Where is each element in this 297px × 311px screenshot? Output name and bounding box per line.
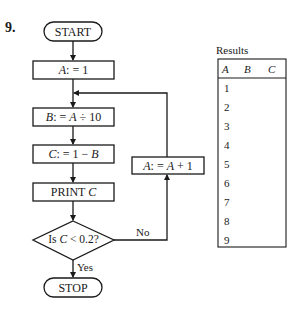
decision-var: C: [59, 233, 67, 245]
start-terminal: START: [44, 26, 102, 38]
results-header-a: A: [222, 64, 229, 75]
step-b-expr-rest: ÷ 10: [80, 110, 102, 124]
step-c-op: : = 1 −: [56, 147, 88, 161]
init-op: : = 1: [66, 63, 88, 77]
print-label: PRINT: [51, 185, 85, 199]
results-header-b: B: [244, 64, 251, 75]
step-b: B: = A ÷ 10: [33, 111, 114, 123]
init-step: A: = 1: [33, 64, 114, 76]
results-row-7-a: 7: [224, 197, 230, 208]
stop-terminal: STOP: [44, 282, 102, 294]
increment-var: A: [143, 159, 150, 173]
problem-number: 9.: [5, 21, 16, 35]
decision-step: Is C < 0.2?: [33, 234, 114, 246]
print-var: C: [88, 185, 96, 199]
results-row-9-a: 9: [224, 235, 230, 246]
results-row-2-a: 2: [224, 102, 230, 113]
step-c-expr-var: B: [91, 147, 98, 161]
decision-rest: < 0.2?: [70, 233, 99, 245]
print-step: PRINT C: [33, 186, 114, 198]
results-row-5-a: 5: [224, 159, 230, 170]
increment-step: A: = A + 1: [132, 160, 204, 172]
results-table-title: Results: [216, 45, 248, 56]
results-row-3-a: 3: [224, 121, 230, 132]
results-row-8-a: 8: [224, 216, 230, 227]
step-b-expr-var: A: [69, 110, 76, 124]
increment-expr-var: A: [167, 159, 174, 173]
results-row-1-a: 1: [224, 83, 230, 94]
no-branch-label: No: [136, 227, 149, 238]
decision-prefix: Is: [48, 233, 56, 245]
yes-branch-label: Yes: [77, 262, 93, 273]
results-header-c: C: [268, 64, 275, 75]
increment-expr-rest: + 1: [177, 159, 193, 173]
step-b-op: : =: [53, 110, 66, 124]
step-c: C: = 1 − B: [33, 148, 114, 160]
results-row-4-a: 4: [224, 140, 230, 151]
init-var: A: [59, 63, 66, 77]
results-row-6-a: 6: [224, 178, 230, 189]
increment-op: : =: [151, 159, 164, 173]
